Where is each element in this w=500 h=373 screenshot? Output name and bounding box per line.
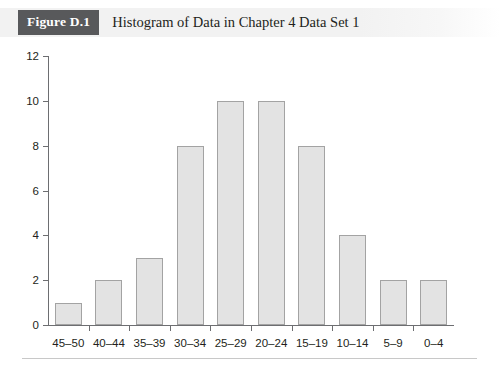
plot-area: 024681012 45–5040–4435–3930–3425–2920–24… <box>48 56 454 325</box>
bar <box>298 146 325 325</box>
histogram-chart: 024681012 45–5040–4435–3930–3425–2920–24… <box>0 0 500 373</box>
x-tick-label: 25–29 <box>215 337 247 349</box>
y-tick-label: 0 <box>33 319 39 331</box>
bar <box>339 235 366 325</box>
x-tick-label: 35–39 <box>134 337 166 349</box>
y-tick-label: 10 <box>26 95 39 107</box>
bar <box>95 280 122 325</box>
bar <box>420 280 447 325</box>
x-tick-label: 20–24 <box>255 337 287 349</box>
x-tick-label: 40–44 <box>93 337 125 349</box>
x-tick-label: 45–50 <box>52 337 84 349</box>
bar-series <box>48 56 454 326</box>
bar <box>258 101 285 325</box>
bar <box>217 101 244 325</box>
bar <box>380 280 407 325</box>
y-tick-label: 12 <box>26 50 39 62</box>
footer-divider <box>22 358 477 359</box>
bar <box>177 146 204 325</box>
x-tick-label: 10–14 <box>337 337 369 349</box>
bar <box>136 258 163 325</box>
y-tick-label: 8 <box>33 140 39 152</box>
x-tick-label: 15–19 <box>296 337 328 349</box>
y-tick-label: 2 <box>33 274 39 286</box>
x-tick-label: 5–9 <box>384 337 403 349</box>
y-tick-label: 4 <box>33 229 39 241</box>
bar <box>55 303 82 325</box>
x-tick-label: 30–34 <box>174 337 206 349</box>
x-tick-label: 0–4 <box>424 337 443 349</box>
y-tick-label: 6 <box>33 185 39 197</box>
